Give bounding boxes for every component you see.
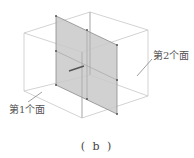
label-face-2: 第2个面 [153, 51, 189, 61]
label-face-1: 第1个面 [9, 105, 45, 115]
figure-caption: ( b ) [0, 140, 194, 153]
box-with-plane-diagram [0, 0, 194, 158]
leader-line-face2 [137, 59, 152, 76]
